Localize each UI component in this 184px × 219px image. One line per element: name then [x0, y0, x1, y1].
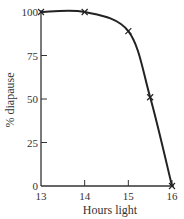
y-tick-label: 25 — [27, 137, 39, 149]
x-ticks: 13141516 — [36, 180, 179, 202]
x-axis-title: Hours light — [83, 203, 138, 217]
diapause-chart: 0255075100 13141516 Hours light % diapau… — [0, 0, 184, 219]
diapause-curve — [41, 11, 172, 186]
data-markers — [38, 9, 175, 189]
y-tick-label: 100 — [22, 6, 39, 18]
x-tick-label: 14 — [79, 190, 91, 202]
x-tick-label: 16 — [167, 190, 179, 202]
x-tick-label: 13 — [36, 190, 48, 202]
y-axis-title: % diapause — [3, 73, 17, 128]
x-marker-icon — [125, 28, 131, 34]
y-ticks: 0255075100 — [22, 6, 48, 192]
y-tick-label: 75 — [27, 50, 39, 62]
x-tick-label: 15 — [123, 190, 135, 202]
y-tick-label: 50 — [27, 93, 39, 105]
